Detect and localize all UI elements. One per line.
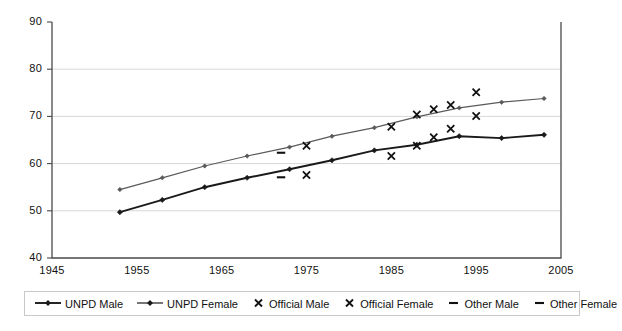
data-point [541, 132, 546, 137]
data-point [430, 106, 437, 113]
data-point [430, 134, 437, 141]
dash-icon [447, 295, 460, 313]
series-official-female [303, 89, 480, 150]
series-unpd-male [117, 132, 546, 215]
axis-box [52, 22, 561, 258]
legend-label: Other Male [464, 298, 518, 310]
data-point [160, 197, 165, 202]
series-unpd-female [118, 96, 547, 191]
line-diamond-icon [137, 295, 163, 313]
gridlines [52, 69, 561, 211]
y-tick-label: 70 [8, 109, 42, 121]
cross-x-icon [343, 295, 356, 313]
y-tick-label: 40 [8, 251, 42, 263]
x-tick-label: 1995 [446, 264, 506, 276]
data-point [542, 96, 546, 100]
data-point [457, 134, 462, 139]
legend-label: UNPD Female [167, 298, 238, 310]
data-point [287, 167, 292, 172]
legend-label: Other Female [550, 298, 617, 310]
line-diamond-icon [35, 295, 61, 313]
series-layer [117, 89, 546, 215]
data-point [372, 148, 377, 153]
series-official-male [303, 112, 480, 178]
legend-label: Official Male [269, 298, 329, 310]
y-tick-label: 50 [8, 204, 42, 216]
data-point [118, 187, 122, 191]
data-point [447, 125, 454, 132]
data-point [447, 101, 454, 108]
data-point [202, 185, 207, 190]
data-point [329, 158, 334, 163]
legend-item-other-male[interactable]: Other Male [447, 295, 532, 313]
x-tick-label: 1955 [107, 264, 167, 276]
data-point [372, 126, 376, 130]
legend-item-official-female[interactable]: Official Female [343, 295, 447, 313]
chart-legend: UNPD MaleUNPD FemaleOfficial MaleOfficia… [24, 291, 580, 316]
x-tick-label: 1985 [361, 264, 421, 276]
data-point [473, 89, 480, 96]
data-point [388, 152, 395, 159]
x-tick-label: 2005 [531, 264, 591, 276]
data-point [287, 145, 291, 149]
series-line [120, 135, 544, 212]
legend-label: Official Female [360, 298, 433, 310]
cross-x-icon [252, 295, 265, 313]
legend-items: UNPD MaleUNPD FemaleOfficial MaleOfficia… [25, 292, 579, 315]
data-point [499, 100, 503, 104]
axis-frame [47, 22, 561, 258]
data-point [245, 154, 249, 158]
data-point [160, 176, 164, 180]
data-point [499, 136, 504, 141]
legend-item-official-male[interactable]: Official Male [252, 295, 343, 313]
x-tick-label: 1975 [277, 264, 337, 276]
y-tick-label: 80 [8, 62, 42, 74]
data-point [457, 106, 461, 110]
legend-item-unpd-female[interactable]: UNPD Female [137, 295, 252, 313]
data-point [330, 134, 334, 138]
y-tick-label: 60 [8, 157, 42, 169]
legend-label: UNPD Male [65, 298, 123, 310]
y-tick-label: 90 [8, 15, 42, 27]
dash-icon [533, 295, 546, 313]
x-tick-label: 1965 [192, 264, 252, 276]
series-line [120, 99, 544, 190]
data-point [303, 171, 310, 178]
data-point [203, 164, 207, 168]
x-tick-label: 1945 [22, 264, 82, 276]
legend-item-unpd-male[interactable]: UNPD Male [35, 295, 137, 313]
data-point [388, 123, 395, 130]
data-point [245, 175, 250, 180]
legend-item-other-female[interactable]: Other Female [533, 295, 622, 313]
